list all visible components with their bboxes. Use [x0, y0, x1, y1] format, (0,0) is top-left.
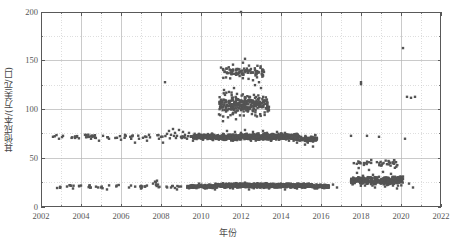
x-tick-label: 2022: [421, 212, 456, 221]
x-tick-label: 2016: [301, 212, 341, 221]
scatter-chart-figure: 其他成本/(万美元/口) 050100150200 20022004200620…: [0, 0, 456, 248]
x-tick-label: 2020: [381, 212, 421, 221]
x-tick-label: 2014: [261, 212, 301, 221]
x-tick-label: 2018: [341, 212, 381, 221]
x-tick-label: 2010: [181, 212, 221, 221]
x-tick-label: 2006: [101, 212, 141, 221]
x-tick-label: 2012: [221, 212, 261, 221]
x-tick-label: 2004: [61, 212, 101, 221]
x-tick-label: 2008: [141, 212, 181, 221]
x-axis-title: 年份: [0, 226, 456, 239]
x-axis-tick-labels: 2002200420062008201020122014201620182020…: [0, 0, 456, 248]
x-tick-label: 2002: [21, 212, 61, 221]
